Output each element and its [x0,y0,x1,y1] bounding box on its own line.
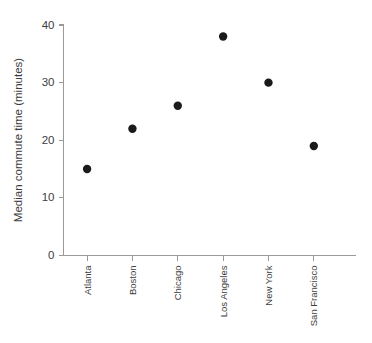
data-point [264,78,272,86]
y-tick-label: 20 [42,134,55,146]
x-tick-label: New York [263,265,274,305]
x-tick-label-group: AtlantaBostonChicagoLos AngelesNew YorkS… [82,265,320,326]
x-tick-label: Chicago [172,266,183,301]
x-tick-label: Boston [127,266,138,296]
plot-area: 010203040 AtlantaBostonChicagoLos Angele… [0,0,372,343]
data-point-group [83,32,318,173]
y-tick-label-group: 010203040 [42,19,55,262]
y-axis-label: Median commute time (minutes) [12,58,24,222]
y-tick-label: 30 [42,76,55,88]
x-tick-label: Atlanta [82,265,93,295]
y-tick-group [59,25,64,256]
scatter-chart: 010203040 AtlantaBostonChicagoLos Angele… [0,0,372,343]
data-point [83,165,91,173]
x-tick-label: San Francisco [308,266,319,327]
x-tick-label: Los Angeles [218,265,229,317]
data-point [310,142,318,150]
x-tick-group [87,256,314,261]
y-tick-label: 0 [48,249,54,261]
y-tick-label: 40 [42,19,55,31]
data-point [128,125,136,133]
data-point [219,32,227,40]
data-point [174,101,182,109]
y-tick-label: 10 [42,191,55,203]
